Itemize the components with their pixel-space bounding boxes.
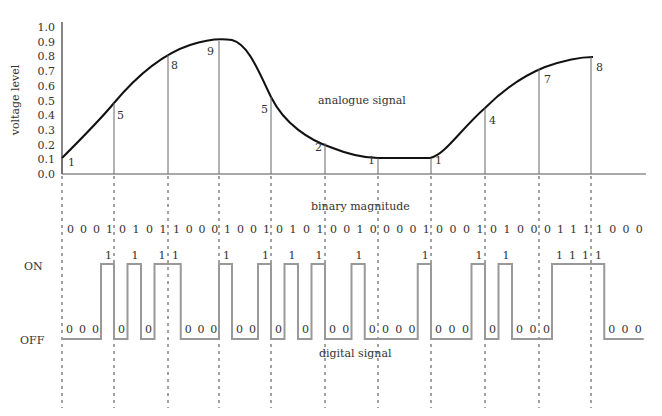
digital-bit-label: 1 (595, 249, 602, 262)
digital-bit-label: 0 (210, 323, 217, 336)
binary-digit: 0 (343, 223, 350, 236)
digital-bit-label: 0 (395, 323, 402, 336)
digital-bit-label: 0 (409, 323, 416, 336)
y-tick-label: 0.4 (38, 109, 56, 122)
binary-digit: 0 (370, 223, 377, 236)
sample-value-label: 9 (207, 45, 214, 58)
digital-bit-label: 0 (92, 323, 99, 336)
digital-bit-label: 0 (329, 323, 336, 336)
digital-bit-label: 0 (489, 323, 496, 336)
binary-digit: 0 (517, 223, 524, 236)
binary-digit: 1 (317, 223, 324, 236)
digital-bit-label: 1 (132, 249, 139, 262)
y-tick-label: 0.2 (38, 139, 56, 152)
sample-value-label: 4 (489, 114, 496, 127)
y-tick-label: 0.8 (38, 50, 56, 63)
sample-value-label: 1 (368, 154, 375, 167)
digital-signal-label: digital signal (319, 347, 392, 360)
digital-bit-label: 0 (449, 323, 456, 336)
binary-digit: 1 (477, 223, 484, 236)
digital-bit-label: 1 (422, 249, 429, 262)
digital-bit-label: 0 (635, 323, 642, 336)
y-tick-label: 1.0 (38, 21, 56, 34)
digital-bit-label: 0 (275, 323, 282, 336)
binary-digit: 0 (211, 223, 218, 236)
binary-digit: 0 (636, 223, 643, 236)
binary-digit: 1 (290, 223, 297, 236)
binary-digit: 1 (106, 223, 113, 236)
digital-bit-label: 0 (435, 323, 442, 336)
digital-bit-label: 0 (118, 323, 125, 336)
sample-value-label: 5 (117, 109, 124, 122)
digital-bit-label: 1 (172, 249, 179, 262)
binary-digit: 0 (623, 223, 630, 236)
binary-digit: 0 (199, 223, 206, 236)
digital-bit-label: 1 (556, 249, 563, 262)
binary-digit: 1 (173, 223, 180, 236)
y-tick-label: 0.1 (38, 153, 56, 166)
digital-bit-label: 0 (543, 323, 550, 336)
binary-digit: 0 (383, 223, 390, 236)
digital-bit-label: 0 (462, 323, 469, 336)
binary-magnitude-label: binary magnitude (311, 200, 410, 213)
y-tick-label: 0.3 (38, 124, 56, 137)
digital-bit-label: 1 (476, 249, 483, 262)
digital-bit-label: 0 (198, 323, 205, 336)
binary-digit: 0 (490, 223, 497, 236)
binary-digit: 1 (423, 223, 430, 236)
binary-digit: 0 (237, 223, 244, 236)
digital-bit-label: 0 (530, 323, 537, 336)
digital-bit-label: 1 (316, 249, 323, 262)
binary-digit: 0 (186, 223, 193, 236)
digital-bit-label: 0 (302, 323, 309, 336)
binary-digit: 0 (80, 223, 87, 236)
binary-digit: 1 (596, 223, 603, 236)
y-tick-label: 0.9 (38, 36, 56, 49)
analogue-signal-label: analogue signal (318, 94, 406, 107)
binary-digit: 0 (436, 223, 443, 236)
binary-digit: 0 (463, 223, 470, 236)
digital-bit-label: 0 (608, 323, 615, 336)
binary-digit: 1 (504, 223, 511, 236)
digital-bit-label: 1 (503, 249, 510, 262)
sample-value-label: 8 (171, 59, 178, 72)
digital-bit-label: 0 (382, 323, 389, 336)
binary-digit: 0 (67, 223, 74, 236)
digital-bit-label: 0 (236, 323, 243, 336)
sample-value-label: 1 (68, 156, 75, 169)
digital-bit-label: 1 (105, 249, 112, 262)
binary-digit: 0 (396, 223, 403, 236)
sample-value-label: 8 (596, 61, 603, 74)
sample-value-label: 7 (544, 73, 551, 86)
digital-bit-label: 1 (223, 249, 230, 262)
binary-digit: 1 (160, 223, 167, 236)
digital-bit-label: 1 (582, 249, 589, 262)
binary-digit: 0 (330, 223, 337, 236)
digital-bit-label: 0 (622, 323, 629, 336)
binary-digit: 0 (146, 223, 153, 236)
sample-value-label: 1 (435, 154, 442, 167)
digital-bit-label: 1 (262, 249, 269, 262)
binary-digit: 1 (557, 223, 564, 236)
sample-value-label: 5 (261, 103, 268, 116)
digital-bit-label: 0 (66, 323, 73, 336)
digital-bit-label: 1 (356, 249, 363, 262)
y-tick-label: 0.5 (38, 95, 56, 108)
binary-digit: 1 (583, 223, 590, 236)
binary-digit: 1 (263, 223, 270, 236)
y-tick-label: 0.6 (38, 80, 56, 93)
binary-digit: 0 (93, 223, 100, 236)
binary-digit: 0 (276, 223, 283, 236)
binary-digit: 0 (119, 223, 126, 236)
digital-bit-label: 1 (159, 249, 166, 262)
digital-bit-label: 0 (369, 323, 376, 336)
binary-digit: 0 (450, 223, 457, 236)
binary-digit: 0 (410, 223, 417, 236)
analogue-to-digital-diagram: 0.00.10.20.30.40.50.60.70.80.91.0voltage… (0, 0, 662, 416)
binary-digit: 0 (250, 223, 257, 236)
binary-digit: 1 (133, 223, 140, 236)
digital-bit-label: 0 (145, 323, 152, 336)
binary-digit: 0 (303, 223, 310, 236)
y-axis-label: voltage level (9, 64, 22, 136)
binary-digit: 0 (544, 223, 551, 236)
